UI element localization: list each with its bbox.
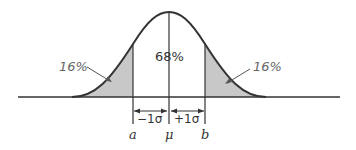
right-tail-label: 16% <box>253 59 282 74</box>
left-tail-label: 16% <box>59 59 88 74</box>
mu-label: μ <box>165 127 173 142</box>
minus-sigma-label: −1σ <box>137 112 162 126</box>
center-percent-label: 68% <box>155 49 184 64</box>
normal-distribution-diagram: 68% 16% 16% −1σ +1σ a μ b <box>0 0 356 150</box>
a-label: a <box>129 127 137 142</box>
bell-curve-graphic <box>0 0 356 150</box>
plus-sigma-label: +1σ <box>174 112 199 126</box>
b-label: b <box>201 127 209 142</box>
